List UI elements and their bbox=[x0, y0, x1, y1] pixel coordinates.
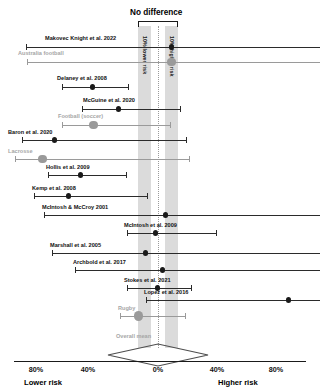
axis-tick-4: 80% bbox=[258, 365, 294, 374]
ci-line bbox=[48, 175, 126, 176]
row-label: Football (soccer) bbox=[58, 113, 103, 119]
row-label: Makovec Knight et al. 2022 bbox=[45, 35, 116, 41]
estimate-marker bbox=[89, 121, 98, 130]
row-label: Stokes et al. 2021 bbox=[124, 277, 171, 283]
ci-cap-high bbox=[189, 156, 190, 162]
axis-tick-2: 0% bbox=[140, 365, 176, 374]
ci-cap-low bbox=[82, 106, 83, 112]
estimate-marker bbox=[78, 172, 83, 177]
ci-cap-high bbox=[216, 230, 217, 236]
estimate-marker bbox=[153, 230, 158, 235]
ci-line bbox=[62, 125, 170, 126]
row-label: Rugby bbox=[118, 305, 135, 311]
axis-tick-1: 40% bbox=[70, 365, 106, 374]
overall-mean-label: Overall mean bbox=[116, 333, 151, 339]
ci-cap-high bbox=[170, 122, 171, 128]
row-label: McGuine et al. 2020 bbox=[83, 97, 135, 103]
band-label-higher-risk: 10% higher risk bbox=[169, 36, 175, 77]
row-label: McIntosh et al. 2009 bbox=[124, 222, 177, 228]
ci-cap-low bbox=[62, 84, 63, 90]
estimate-marker bbox=[286, 297, 291, 302]
estimate-marker bbox=[167, 58, 176, 67]
ci-cap-high bbox=[128, 84, 129, 90]
ci-cap-low bbox=[44, 212, 45, 218]
ci-cap-low bbox=[34, 193, 35, 199]
row-label: Australia football bbox=[18, 50, 64, 56]
estimate-marker bbox=[134, 311, 143, 320]
row-label: Kemp et al. 2008 bbox=[32, 185, 76, 191]
axis-label-higher-risk: Higher risk bbox=[218, 378, 258, 387]
ci-cap-high bbox=[185, 313, 186, 319]
ci-cap-low bbox=[15, 156, 16, 162]
ci-cap-high bbox=[191, 285, 192, 291]
estimate-marker bbox=[116, 106, 121, 111]
ci-cap-low bbox=[146, 297, 147, 303]
no-difference-bracket bbox=[138, 21, 178, 27]
estimate-marker bbox=[52, 137, 57, 142]
ci-cap-high bbox=[126, 172, 127, 178]
ci-cap-low bbox=[120, 313, 121, 319]
ci-cap-high bbox=[180, 106, 181, 112]
ci-line bbox=[82, 109, 180, 110]
row-label: Lopez et al. 2016 bbox=[144, 289, 188, 295]
ci-line bbox=[44, 215, 320, 216]
ci-cap-high bbox=[186, 137, 187, 143]
row-label: Delaney et al. 2008 bbox=[57, 75, 107, 81]
ci-cap-low bbox=[52, 250, 53, 256]
ci-line bbox=[22, 140, 186, 141]
ci-line bbox=[52, 253, 320, 254]
forest-plot: 10% lower risk 10% higher risk No differ… bbox=[0, 0, 320, 392]
estimate-marker bbox=[160, 267, 165, 272]
estimate-marker bbox=[66, 193, 71, 198]
ci-line bbox=[34, 196, 147, 197]
ci-line bbox=[120, 316, 185, 317]
axis-label-lower-risk: Lower risk bbox=[24, 378, 62, 387]
ci-cap-low bbox=[75, 267, 76, 273]
row-label: Baron et al. 2020 bbox=[8, 129, 52, 135]
row-label: Marshall et al. 2005 bbox=[50, 242, 101, 248]
ci-cap-low bbox=[62, 122, 63, 128]
row-label: Lacrosse bbox=[8, 148, 33, 154]
estimate-marker bbox=[169, 44, 174, 49]
ci-cap-high bbox=[147, 193, 148, 199]
ci-cap-low bbox=[27, 59, 28, 65]
ci-line bbox=[146, 300, 320, 301]
estimate-marker bbox=[90, 84, 95, 89]
band-label-lower-risk: 10% lower risk bbox=[142, 36, 148, 74]
ci-line bbox=[127, 233, 216, 234]
ci-cap-low bbox=[48, 172, 49, 178]
row-label: McIntosh & McCroy 2001 bbox=[42, 204, 108, 210]
estimate-marker bbox=[143, 250, 148, 255]
x-axis bbox=[14, 361, 306, 362]
ci-line bbox=[75, 270, 320, 271]
no-difference-title: No difference bbox=[130, 8, 182, 17]
estimate-marker bbox=[163, 212, 168, 217]
ci-cap-low bbox=[127, 230, 128, 236]
axis-tick-3: 40% bbox=[199, 365, 235, 374]
row-label: Hollis et al. 2009 bbox=[46, 164, 90, 170]
estimate-marker bbox=[38, 155, 47, 164]
ci-cap-low bbox=[22, 137, 23, 143]
row-label: Archbold et al. 2017 bbox=[73, 259, 126, 265]
axis-tick-0: 80% bbox=[18, 365, 54, 374]
ci-cap-low bbox=[127, 285, 128, 291]
